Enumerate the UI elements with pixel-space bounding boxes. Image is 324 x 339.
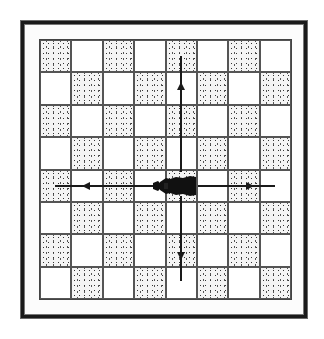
board-square xyxy=(228,137,259,169)
board-square xyxy=(103,40,134,72)
board-square xyxy=(103,170,134,202)
board-square xyxy=(260,72,291,104)
board-square xyxy=(166,234,197,266)
board-square xyxy=(197,170,228,202)
board-square xyxy=(197,267,228,299)
board-square xyxy=(166,170,197,202)
board-square xyxy=(197,202,228,234)
board-square xyxy=(260,202,291,234)
board-square xyxy=(228,72,259,104)
board-square xyxy=(197,105,228,137)
board-square xyxy=(71,137,102,169)
board-square xyxy=(71,105,102,137)
board-square xyxy=(40,202,71,234)
board-square xyxy=(228,234,259,266)
board-square xyxy=(103,267,134,299)
board-square xyxy=(260,137,291,169)
board-square xyxy=(228,202,259,234)
board-square xyxy=(134,72,165,104)
board-square xyxy=(228,267,259,299)
board-square xyxy=(228,105,259,137)
board-square xyxy=(103,234,134,266)
board-square xyxy=(71,40,102,72)
board-square xyxy=(103,137,134,169)
board-square xyxy=(260,40,291,72)
board-square xyxy=(134,234,165,266)
board-square xyxy=(134,170,165,202)
board-square xyxy=(71,72,102,104)
board-square xyxy=(166,72,197,104)
board-square xyxy=(40,170,71,202)
board-square xyxy=(197,137,228,169)
board-square xyxy=(134,105,165,137)
board-square xyxy=(103,72,134,104)
board-square xyxy=(228,170,259,202)
board-square xyxy=(71,234,102,266)
board-square xyxy=(71,202,102,234)
board-square xyxy=(260,170,291,202)
board-square xyxy=(197,234,228,266)
board-square xyxy=(166,137,197,169)
board-square xyxy=(134,202,165,234)
board-square xyxy=(166,267,197,299)
board-square xyxy=(103,105,134,137)
board-square xyxy=(228,40,259,72)
board-square xyxy=(166,40,197,72)
board-square xyxy=(40,234,71,266)
board-square xyxy=(40,40,71,72)
board-square xyxy=(40,267,71,299)
board-square xyxy=(197,72,228,104)
board-square xyxy=(134,137,165,169)
board-square xyxy=(197,40,228,72)
board-square xyxy=(40,72,71,104)
board-square xyxy=(134,40,165,72)
board-square xyxy=(260,105,291,137)
board-square xyxy=(166,105,197,137)
chessboard xyxy=(39,39,292,300)
board-square xyxy=(40,105,71,137)
board-square xyxy=(134,267,165,299)
board-square xyxy=(103,202,134,234)
board-square xyxy=(71,267,102,299)
board-square xyxy=(260,267,291,299)
board-square xyxy=(40,137,71,169)
board-square xyxy=(260,234,291,266)
board-square xyxy=(166,202,197,234)
board-square xyxy=(71,170,102,202)
